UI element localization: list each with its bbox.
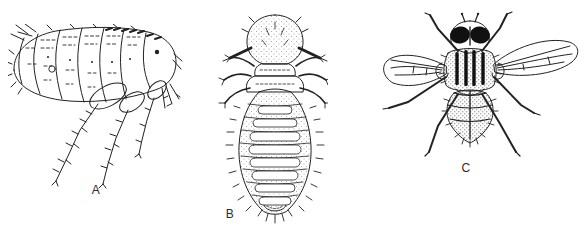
fly-illustration: [380, 5, 585, 167]
panel-label-b: B: [222, 208, 238, 220]
flea-illustration: [8, 24, 183, 190]
panel-label-a: A: [88, 184, 104, 196]
panel-label-c: C: [458, 162, 474, 174]
figure-canvas: A B C: [0, 0, 585, 231]
louse-illustration: [218, 8, 328, 230]
